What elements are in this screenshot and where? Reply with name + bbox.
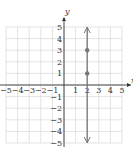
y-tick-label: −5 bbox=[50, 139, 62, 147]
x-tick-label: −4 bbox=[12, 86, 24, 95]
x-tick-label: −2 bbox=[35, 86, 47, 95]
y-axis-label: y bbox=[64, 7, 70, 16]
y-tick-label: −1 bbox=[50, 93, 62, 102]
x-tick-label: 1 bbox=[73, 86, 78, 95]
y-tick-label: −3 bbox=[50, 116, 62, 125]
y-tick-label: 3 bbox=[57, 46, 62, 55]
data-point bbox=[85, 71, 89, 75]
y-axis-arrow bbox=[62, 17, 66, 21]
x-axis-label: x bbox=[131, 76, 133, 85]
y-tick-label: 2 bbox=[57, 58, 62, 67]
y-tick-label: 1 bbox=[57, 69, 62, 78]
axes bbox=[0, 17, 131, 147]
y-tick-label: −2 bbox=[50, 104, 62, 113]
x-tick-label: 4 bbox=[108, 86, 113, 95]
x-tick-label: 3 bbox=[96, 86, 101, 95]
x-tick-label: −5 bbox=[0, 86, 12, 95]
data-point bbox=[85, 48, 89, 52]
y-tick-label: 5 bbox=[57, 23, 62, 32]
y-tick-label: 4 bbox=[57, 35, 62, 44]
y-tick-label: −4 bbox=[50, 127, 62, 136]
x-tick-label: −3 bbox=[23, 86, 35, 95]
coordinate-plane: −5−4−3−2−11234554321−1−2−3−4−5 x y bbox=[0, 0, 133, 147]
x-tick-label: 5 bbox=[119, 86, 124, 95]
